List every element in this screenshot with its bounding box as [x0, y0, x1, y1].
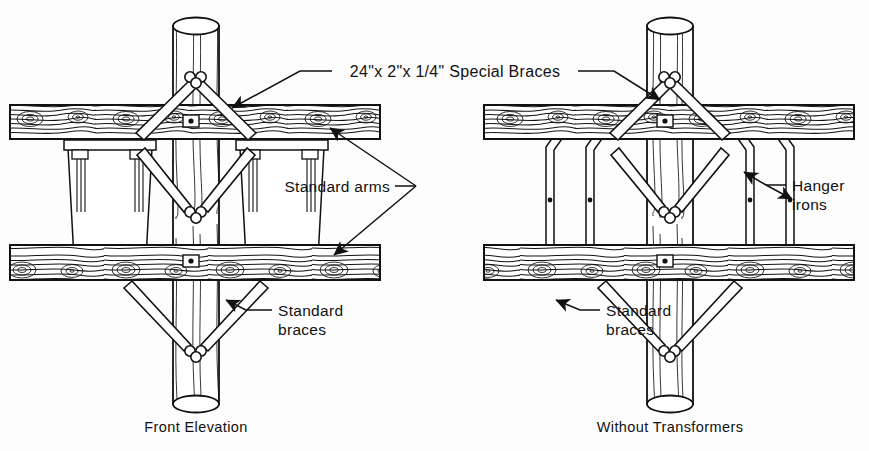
pole-bottom	[647, 396, 693, 413]
label-standard-arms: Standard arms	[284, 178, 390, 195]
pole-top	[173, 18, 219, 35]
label-special-braces: 24"x 2"x 1/4" Special Braces	[350, 63, 560, 80]
label-standard-braces-right-line1: Standard	[606, 302, 671, 319]
upper-crossarm	[10, 105, 380, 139]
caption-right: Without Transformers	[597, 419, 744, 435]
label-hanger-irons-line2: irons	[792, 196, 827, 213]
label-standard-braces-right-line2: braces	[606, 321, 654, 338]
lower-crossarm	[10, 245, 380, 280]
label-standard-braces-left-line1: Standard	[278, 302, 343, 319]
pole-bottom	[173, 396, 219, 413]
label-standard-braces-left-line2: braces	[278, 321, 326, 338]
upper-crossarm	[484, 105, 854, 139]
lower-crossarm	[484, 245, 854, 280]
caption-left: Front Elevation	[144, 419, 248, 435]
figure-canvas: Front Elevation	[0, 0, 869, 451]
label-hanger-irons-line1: Hanger	[792, 177, 845, 194]
pole-top	[647, 18, 693, 35]
